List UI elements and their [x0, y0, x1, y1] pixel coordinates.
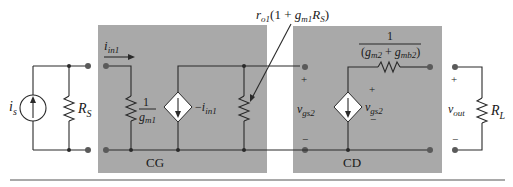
source-terminal-bottom: [85, 147, 91, 153]
source-resistor-label: RS: [77, 101, 92, 119]
circuit-diagram: is RS iin1 1: [0, 0, 513, 187]
cg-box-label: CG: [146, 155, 164, 170]
source-resistor-icon: [64, 96, 74, 121]
load-plus: +: [451, 73, 457, 85]
svg-text:1: 1: [143, 95, 149, 109]
load-resistor-label: RL: [490, 103, 506, 121]
cd-output-terminal-bottom: [427, 147, 433, 153]
cd-input-minus: −: [302, 133, 308, 145]
cd-output-terminal-top: [427, 64, 433, 70]
cd-terminal-top: [302, 64, 308, 70]
svg-text:1: 1: [387, 29, 393, 43]
cg-terminal-bottom: [103, 147, 109, 153]
current-source-icon: [20, 95, 46, 121]
load-terminal-bottom: [452, 147, 458, 153]
cd-input-plus: +: [301, 73, 307, 85]
cd-dep-plus: +: [369, 83, 375, 95]
load-resistor-icon: [477, 98, 487, 123]
load-minus: −: [452, 133, 458, 145]
cg-output-resistor-label: ro1(1 + gm1RS): [256, 7, 329, 24]
output-voltage-label: vout: [448, 102, 465, 118]
source-section: is RS: [9, 63, 92, 153]
source-terminal-top: [85, 63, 91, 69]
source-current-label: is: [9, 99, 17, 117]
cd-box-label: CD: [343, 155, 361, 170]
cg-terminal-top: [103, 63, 109, 69]
load-terminal-top: [452, 64, 458, 70]
load-section: + − vout RL: [448, 64, 506, 153]
